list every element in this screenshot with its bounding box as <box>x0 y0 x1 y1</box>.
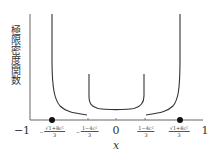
x-tick-label-0: 0 <box>113 124 120 137</box>
x-tick-label-1: 1 <box>202 124 209 137</box>
right-endpoint-dot <box>177 117 183 123</box>
frac-denominator: 3 <box>137 132 154 138</box>
frac-denominator: 3 <box>81 132 98 138</box>
left-branch-curve <box>52 14 87 115</box>
frac-numerator: √1+8c² <box>169 125 190 132</box>
center-branch-curve <box>89 74 144 110</box>
y-axis-label: 極限密度関数 <box>8 25 22 85</box>
minus-sign: − <box>76 129 80 135</box>
x-tick-label-pos-inner: 1−4c² 3 <box>137 125 154 138</box>
frac-numerator: √1+8c² <box>44 125 65 132</box>
x-tick-label-neg-outer: − √1+8c² 3 <box>39 125 65 138</box>
right-branch-curve <box>146 14 180 115</box>
x-tick-label-neg-inner: − 1−4c² 3 <box>76 125 99 138</box>
minus-sign: − <box>39 129 43 135</box>
left-endpoint-dot <box>49 117 55 123</box>
frac-numerator: 1−4c² <box>137 125 154 132</box>
frac-numerator: 1−4c² <box>81 125 98 132</box>
frac-denominator: 3 <box>44 132 65 138</box>
frac-denominator: 3 <box>169 132 190 138</box>
x-tick-label-neg1: −1 <box>14 124 30 137</box>
x-axis-label: x <box>113 139 119 152</box>
x-tick-label-pos-outer: √1+8c² 3 <box>169 125 190 138</box>
